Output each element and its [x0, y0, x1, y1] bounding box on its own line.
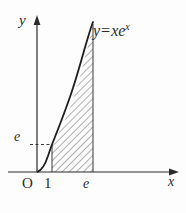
x-axis-label: x [168, 175, 174, 189]
y-tick-label-e: e [14, 130, 20, 144]
equation-rhs-base: xe [111, 22, 125, 39]
math-figure: y x O 1 e e y=xex [0, 0, 186, 213]
equation-rhs-exponent: x [125, 21, 129, 32]
y-axis-arrow-icon [34, 15, 41, 25]
shaded-area [50, 20, 96, 174]
origin-label: O [22, 176, 33, 191]
equation-equals: = [100, 22, 111, 39]
curve-equation-label: y=xex [93, 22, 130, 39]
y-axis-label: y [19, 13, 26, 28]
x-tick-label-1: 1 [44, 176, 52, 191]
x-tick-label-e: e [83, 177, 89, 191]
